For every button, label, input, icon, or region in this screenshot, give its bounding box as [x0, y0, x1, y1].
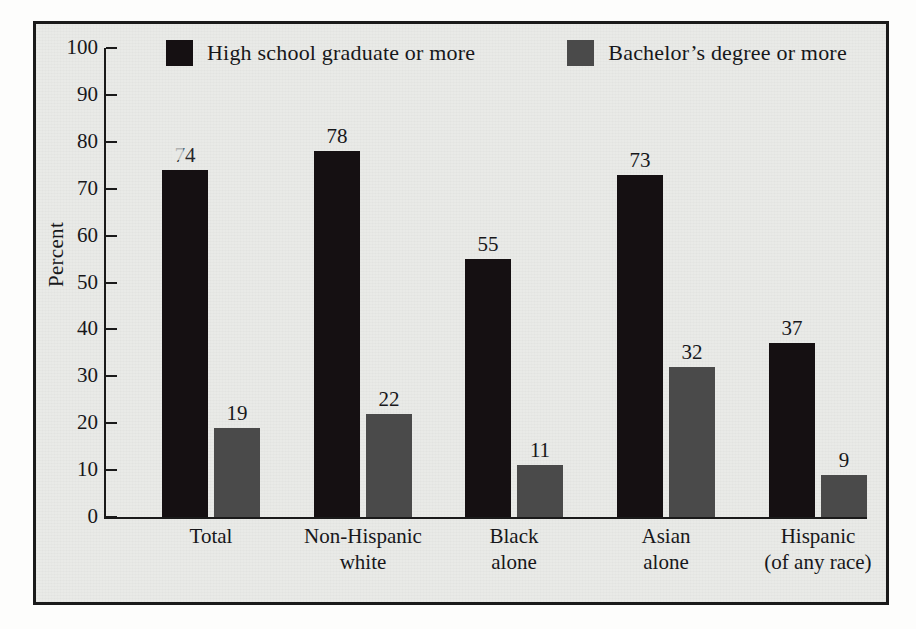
bar-group: 7822 — [314, 48, 412, 517]
y-tick-label: 0 — [44, 506, 98, 527]
bar-value-label: 74 — [175, 145, 196, 166]
bar: 9 — [821, 475, 867, 517]
bar-value-label: 37 — [782, 318, 803, 339]
bar-value-label: 55 — [478, 234, 499, 255]
bar-value-label: 11 — [530, 440, 550, 461]
bar: 19 — [214, 428, 260, 517]
bar: 11 — [517, 465, 563, 517]
y-tick-mark — [106, 516, 117, 518]
bar: 22 — [366, 414, 412, 517]
bar-value-label: 78 — [327, 126, 348, 147]
bar-group: 379 — [769, 48, 867, 517]
y-tick-label: 100 — [44, 37, 98, 58]
y-tick-mark — [106, 375, 117, 377]
y-tick-label: 20 — [44, 412, 98, 433]
y-tick-label: 80 — [44, 131, 98, 152]
bar-value-label: 9 — [839, 450, 850, 471]
bar: 55 — [465, 259, 511, 517]
y-tick-label: 40 — [44, 318, 98, 339]
bar: 74 — [162, 170, 208, 517]
y-tick-mark — [106, 235, 117, 237]
bar: 73 — [617, 175, 663, 517]
y-tick-mark — [106, 141, 117, 143]
chart-frame: High school graduate or more Bachelor’s … — [33, 21, 889, 605]
bar: 78 — [314, 151, 360, 517]
y-tick-label: 10 — [44, 459, 98, 480]
y-tick-mark — [106, 282, 117, 284]
legend-swatch-bachelors — [567, 40, 594, 66]
y-tick-mark — [106, 188, 117, 190]
y-tick-mark — [106, 469, 117, 471]
plot-area: High school graduate or more Bachelor’s … — [36, 24, 892, 608]
figure-container: High school graduate or more Bachelor’s … — [0, 0, 916, 629]
y-tick-mark — [106, 328, 117, 330]
bar-value-label: 22 — [379, 389, 400, 410]
bar-group: 7419 — [162, 48, 260, 517]
bar: 32 — [669, 367, 715, 517]
category-label-line: (of any race) — [708, 550, 916, 576]
category-label-line: Hispanic — [708, 524, 916, 550]
y-tick-label: 60 — [44, 225, 98, 246]
bar-value-label: 32 — [682, 342, 703, 363]
y-axis-line — [104, 48, 106, 519]
y-tick-mark — [106, 422, 117, 424]
bar-value-label: 73 — [630, 150, 651, 171]
bar-group: 5511 — [465, 48, 563, 517]
y-tick-mark — [106, 94, 117, 96]
category-label: Hispanic(of any race) — [708, 524, 916, 575]
y-tick-label: 30 — [44, 365, 98, 386]
y-tick-label: 50 — [44, 272, 98, 293]
y-tick-label: 70 — [44, 178, 98, 199]
bar: 37 — [769, 343, 815, 517]
y-tick-mark — [106, 47, 117, 49]
y-tick-label: 90 — [44, 84, 98, 105]
x-axis-baseline — [104, 517, 867, 519]
bar-value-label: 19 — [227, 403, 248, 424]
bar-group: 7332 — [617, 48, 715, 517]
